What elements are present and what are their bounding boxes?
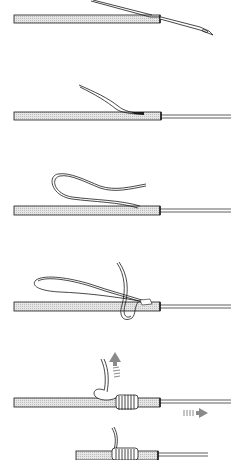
finished-wraps <box>112 448 138 460</box>
pull-up-arrow-icon <box>109 352 121 377</box>
tube <box>14 206 160 215</box>
tag-end <box>112 428 115 450</box>
step-2-panel <box>14 85 231 120</box>
step-3-panel <box>14 174 231 215</box>
tube <box>14 15 160 23</box>
tube <box>14 302 160 311</box>
loop <box>34 277 148 302</box>
step-4-panel <box>14 262 231 319</box>
knot-tying-diagram <box>0 0 235 460</box>
pull-right-arrow-icon <box>184 408 208 418</box>
wraps <box>116 395 138 410</box>
small-loop <box>94 389 116 400</box>
step-1-panel <box>14 0 213 35</box>
tag-end <box>101 359 105 392</box>
step-5-panel <box>14 352 231 418</box>
step-6-panel <box>76 427 208 460</box>
tag-end <box>79 85 142 113</box>
